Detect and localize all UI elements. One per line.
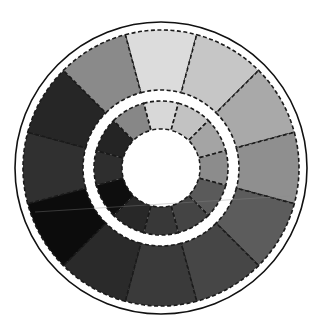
center-hole [123, 130, 199, 206]
color-wheel [0, 0, 319, 333]
